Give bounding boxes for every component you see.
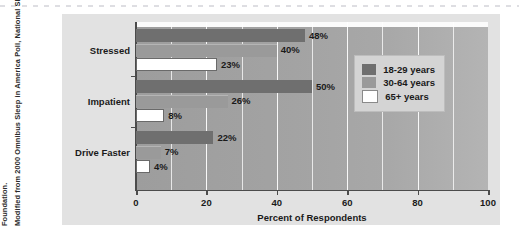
gridline-40 — [277, 22, 278, 190]
x-tick-80 — [418, 190, 420, 195]
x-axis-line — [135, 190, 489, 192]
plot-area: 48%40%23%50%26%8%22%7%4% 18-29 years30-6… — [136, 22, 488, 190]
x-tick-20 — [206, 190, 208, 195]
legend-label: 30-64 years — [383, 77, 435, 88]
x-axis-title: Percent of Respondents — [257, 212, 366, 223]
bar-stressed-series-1 — [136, 44, 277, 57]
legend-swatch-icon-1 — [362, 77, 376, 88]
gridline-50 — [312, 22, 313, 190]
source-caption-line-1: Modified from 2000 Omnibus Sleep in Amer… — [13, 0, 22, 226]
chart-panel: 48%40%23%50%26%8%22%7%4% 18-29 years30-6… — [62, 14, 500, 225]
legend-item-0: 18-29 years — [362, 64, 435, 75]
bar-value-label: 4% — [154, 160, 168, 173]
bar-stressed-series-0 — [136, 29, 305, 42]
y-group-tick-1 — [131, 127, 136, 129]
category-label-stressed: Stressed — [90, 45, 130, 56]
gridline-90 — [453, 22, 454, 190]
x-tick-label-60: 60 — [342, 197, 353, 208]
x-tick-label-20: 20 — [201, 197, 212, 208]
bar-value-label: 7% — [165, 145, 179, 158]
bar-stressed-series-2 — [136, 58, 217, 71]
source-caption: Modified from 2000 Omnibus Sleep in Amer… — [6, 16, 36, 226]
category-label-impatient: Impatient — [88, 96, 130, 107]
bar-value-label: 50% — [316, 80, 335, 93]
x-tick-label-80: 80 — [412, 197, 423, 208]
bar-impatient-series-2 — [136, 109, 164, 122]
legend-label: 18-29 years — [383, 64, 435, 75]
top-dashed-rule — [0, 5, 519, 7]
bar-impatient-series-0 — [136, 80, 312, 93]
source-caption-line-2: Foundation. — [0, 183, 9, 226]
bar-value-label: 23% — [221, 58, 240, 71]
x-tick-60 — [347, 190, 349, 195]
gridline-60 — [347, 22, 348, 190]
bar-drive-faster-series-2 — [136, 160, 150, 173]
x-tick-label-100: 100 — [480, 197, 496, 208]
bar-drive-faster-series-0 — [136, 131, 213, 144]
legend-label: 65+ years — [385, 91, 429, 102]
x-tick-40 — [277, 190, 279, 195]
y-group-tick-0 — [131, 76, 136, 78]
x-tick-100 — [488, 190, 490, 195]
bar-value-label: 26% — [232, 94, 251, 107]
legend: 18-29 years30-64 years65+ years — [354, 55, 445, 112]
x-tick-label-40: 40 — [272, 197, 283, 208]
bar-value-label: 22% — [217, 131, 236, 144]
x-tick-label-0: 0 — [133, 197, 138, 208]
category-label-drive-faster: Drive Faster — [75, 147, 130, 158]
legend-item-2: 65+ years — [362, 90, 435, 103]
bar-value-label: 40% — [281, 43, 300, 56]
legend-swatch-icon-0 — [362, 64, 376, 75]
x-tick-0 — [136, 190, 138, 195]
bar-drive-faster-series-1 — [136, 146, 161, 159]
bar-value-label: 48% — [309, 29, 328, 42]
figure-root: Modified from 2000 Omnibus Sleep in Amer… — [0, 0, 519, 236]
bar-value-label: 8% — [168, 109, 182, 122]
legend-item-1: 30-64 years — [362, 77, 435, 88]
legend-swatch-icon-2 — [362, 90, 378, 103]
bar-impatient-series-1 — [136, 95, 228, 108]
